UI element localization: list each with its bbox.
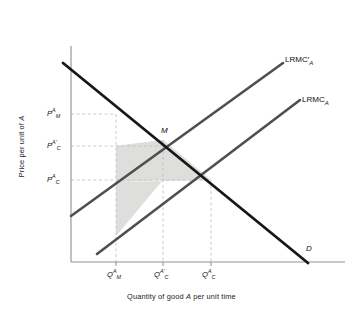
y-tick-label-pcprime: PA′C — [47, 139, 61, 151]
x-tick-qcprime-sub: C — [165, 274, 169, 280]
demand-curve-label: D — [306, 244, 312, 253]
y-tick-pc-sub: C — [56, 179, 60, 185]
lrmc-prime-label-sub: A — [309, 60, 313, 66]
demand-curve[interactable] — [63, 63, 308, 263]
y-tick-label-pc: PAC — [47, 173, 60, 185]
lrmc-label-sub: A — [325, 100, 329, 106]
x-axis-title-post: per unit time — [191, 292, 236, 301]
y-axis-title: Price per unit of A — [17, 82, 26, 212]
point-m-label: M — [161, 126, 168, 135]
x-tick-qm-sub: M — [117, 274, 122, 280]
y-tick-label-pm: PAM — [47, 107, 60, 119]
economics-diagram-figure: LRMC′A LRMCA M D PAM PA′C PAC QAM QA′C Q… — [0, 0, 363, 316]
x-tick-qc-sub: C — [212, 274, 216, 280]
x-tick-label-qcprime: QA′C — [154, 268, 168, 280]
x-tick-label-qm: QAM — [107, 268, 121, 280]
y-tick-pcprime-sub: C — [57, 145, 61, 151]
lrmc-prime-label: LRMC′A — [285, 55, 313, 66]
y-axis-title-italic: A — [17, 116, 26, 121]
x-axis-title-pre: Quantity of good — [127, 292, 186, 301]
lrmc-label: LRMCA — [302, 95, 329, 106]
plot-canvas — [0, 0, 363, 316]
lrmc-label-base: LRMC — [302, 95, 325, 104]
x-axis-title: Quantity of good A per unit time — [0, 292, 363, 301]
x-axis-ticks — [116, 262, 211, 266]
x-tick-label-qc: QAC — [202, 268, 215, 280]
y-axis-title-pre: Price per unit of — [17, 121, 26, 178]
y-tick-pm-sub: M — [56, 113, 61, 119]
lrmc-prime-label-base: LRMC — [285, 55, 308, 64]
